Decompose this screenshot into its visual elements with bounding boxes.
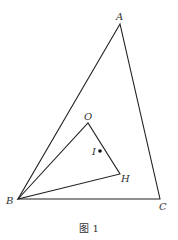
point-i-dot — [98, 149, 102, 153]
figure-caption: 图 1 — [79, 223, 99, 234]
label-i: I — [91, 146, 97, 157]
label-o: O — [84, 111, 92, 122]
label-h: H — [120, 173, 130, 184]
geometry-figure: A B C O H I 图 1 — [0, 0, 178, 240]
triangle-boh — [18, 123, 120, 199]
label-b: B — [5, 195, 13, 206]
label-a: A — [115, 11, 123, 22]
label-c: C — [159, 201, 167, 212]
